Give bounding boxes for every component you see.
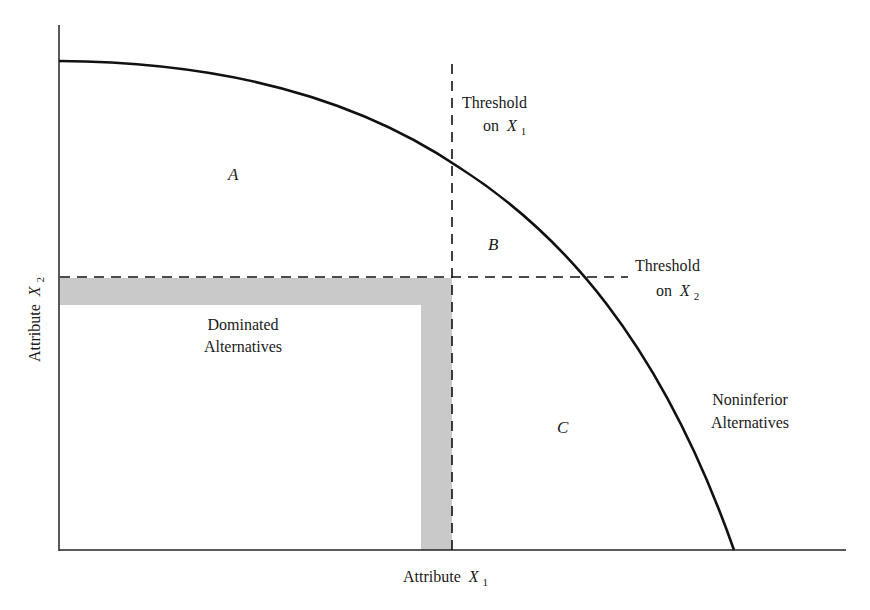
- noninferior-alternatives-label: Noninferior Alternatives: [711, 391, 789, 431]
- svg-text:Threshold: Threshold: [635, 257, 700, 274]
- threshold-x2-annotation: Threshold on X 2: [635, 257, 700, 302]
- y-axis-label: Attribute X 2: [26, 277, 46, 362]
- dominated-alternatives-label: Dominated Alternatives: [204, 316, 282, 355]
- svg-text:Noninferior: Noninferior: [712, 391, 788, 408]
- x-axis-label: Attribute X 1: [403, 568, 488, 588]
- svg-text:Alternatives: Alternatives: [204, 338, 282, 355]
- svg-text:Dominated: Dominated: [207, 316, 278, 333]
- svg-text:Alternatives: Alternatives: [711, 414, 789, 431]
- svg-text:Threshold: Threshold: [462, 94, 527, 111]
- region-a-label: A: [227, 165, 239, 184]
- threshold-x1-annotation: Threshold on X 1: [462, 94, 527, 137]
- svg-text:on X 1: on X 1: [483, 117, 526, 137]
- noninferior-frontier-curve: [59, 61, 734, 550]
- tradeoff-diagram: A B C Threshold on X 1 Threshold on X 2 …: [0, 0, 870, 610]
- svg-text:on X 2: on X 2: [656, 282, 699, 302]
- region-b-label: B: [488, 235, 499, 254]
- region-c-label: C: [557, 418, 569, 437]
